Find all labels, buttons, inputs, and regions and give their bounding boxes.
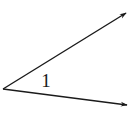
angle-label: 1 — [41, 70, 51, 91]
angle-diagram: 1 — [0, 0, 140, 115]
upper-ray-arrow — [3, 13, 126, 89]
lower-ray-arrow — [3, 89, 127, 105]
